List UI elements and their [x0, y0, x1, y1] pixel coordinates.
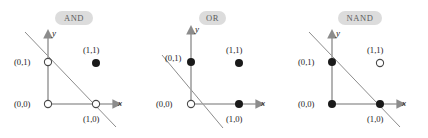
x-axis-label: x [261, 99, 265, 108]
point-label-1-1: (1,1) [226, 46, 242, 55]
point-1-1 [376, 59, 383, 66]
logic-gate-separability-figure: AND y x (0,0) (0,1) (1,0) (1,1) OR y x [0, 0, 428, 138]
point-label-0-0: (0,0) [298, 100, 314, 109]
panel-label-and: AND [55, 11, 93, 25]
panel-label-nand: NAND [338, 11, 382, 25]
point-label-1-0: (1,0) [367, 115, 383, 124]
point-label-0-1: (0,1) [298, 58, 314, 67]
panel-or: OR y x (0,0) (0,1) (1,0) (1,1) [143, 0, 286, 138]
point-0-1 [44, 58, 51, 65]
point-1-1 [235, 59, 243, 67]
panel-label-or: OR [199, 11, 226, 25]
point-0-0 [187, 100, 194, 107]
point-0-1 [187, 58, 195, 66]
x-axis-label: x [402, 99, 406, 108]
point-1-0 [92, 100, 99, 107]
y-axis-label: y [52, 29, 56, 38]
point-0-0 [44, 100, 51, 107]
x-axis-label: x [118, 99, 122, 108]
decision-boundary-line [162, 55, 223, 128]
panel-nand: NAND y x (0,0) (0,1) (1,0) (1,1) [286, 0, 428, 138]
decision-boundary-line [309, 32, 400, 127]
decision-boundary-line [25, 32, 116, 127]
point-0-1 [328, 58, 336, 66]
y-axis-label: y [336, 29, 340, 38]
y-axis-label: y [195, 25, 199, 34]
point-label-1-0: (1,0) [226, 115, 242, 124]
point-label-0-1: (0,1) [14, 58, 30, 67]
point-label-0-1: (0,1) [165, 54, 181, 63]
point-1-0 [235, 100, 243, 108]
point-1-0 [376, 100, 384, 108]
point-0-0 [328, 100, 336, 108]
point-label-1-1: (1,1) [367, 46, 383, 55]
panel-and: AND y x (0,0) (0,1) (1,0) (1,1) [0, 0, 143, 138]
point-label-1-1: (1,1) [83, 46, 99, 55]
point-1-1 [92, 59, 100, 67]
point-label-0-0: (0,0) [14, 100, 30, 109]
point-label-1-0: (1,0) [83, 115, 99, 124]
point-label-0-0: (0,0) [156, 100, 172, 109]
